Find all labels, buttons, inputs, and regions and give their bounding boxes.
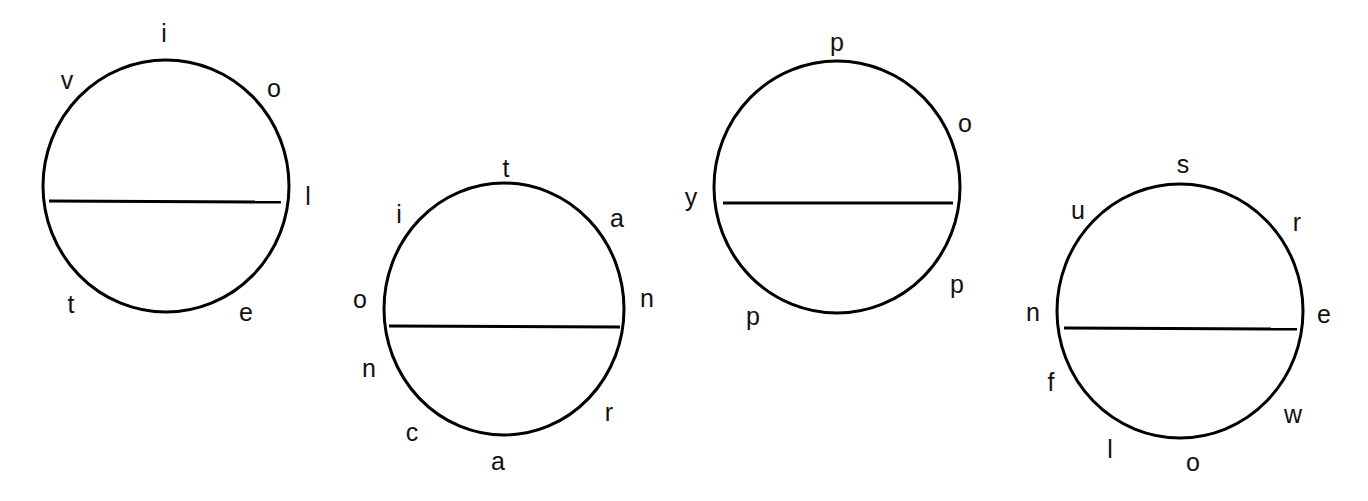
circle-2-letter: o	[353, 287, 367, 312]
circle-1-letter: e	[239, 300, 253, 325]
circle-3-letter: p	[830, 30, 844, 55]
circle-1-letter: l	[305, 184, 311, 209]
circle-3-letter: o	[958, 111, 972, 136]
circle-4-letter: f	[1048, 370, 1055, 395]
divider-line	[389, 326, 620, 327]
circle-3-letter: y	[685, 185, 698, 210]
circle-4-letter: s	[1177, 152, 1190, 177]
divider-line	[1064, 328, 1297, 329]
letter-circle-3	[714, 61, 960, 313]
circle-2-letter: a	[610, 206, 624, 231]
circle-4-letter: r	[1293, 210, 1301, 235]
circle-4-letter: u	[1071, 198, 1085, 223]
circle-4-letter: w	[1284, 402, 1302, 427]
circle-2-letter: r	[605, 400, 613, 425]
circle-2-letter: t	[503, 156, 510, 181]
circle-1-letter: t	[68, 292, 75, 317]
circle-1-letter: v	[61, 68, 74, 93]
circle-4-letter: n	[1026, 300, 1040, 325]
circle-2-letter: n	[640, 286, 654, 311]
circle-outline	[714, 61, 960, 313]
circle-3-letter: p	[746, 304, 760, 329]
circle-outline	[384, 183, 624, 435]
circle-4-letter: e	[1317, 302, 1331, 327]
circles-canvas	[0, 0, 1368, 501]
puzzle-diagram: i o l e t v t a n r a c n o i p o p p y …	[0, 0, 1368, 501]
circle-2-letter: c	[406, 420, 419, 445]
letter-circle-1	[43, 60, 289, 312]
circle-outline	[43, 60, 289, 312]
circle-2-letter: a	[491, 449, 505, 474]
circle-1-letter: o	[267, 76, 281, 101]
divider-line	[49, 201, 281, 202]
circle-4-letter: o	[1186, 450, 1200, 475]
circle-3-letter: p	[950, 272, 964, 297]
circle-outline	[1057, 184, 1303, 438]
circle-2-letter: n	[362, 356, 376, 381]
letter-circle-4	[1057, 184, 1303, 438]
circle-1-letter: i	[161, 21, 167, 46]
circle-4-letter: l	[1107, 437, 1113, 462]
letter-circle-2	[384, 183, 624, 435]
circle-2-letter: i	[396, 202, 402, 227]
